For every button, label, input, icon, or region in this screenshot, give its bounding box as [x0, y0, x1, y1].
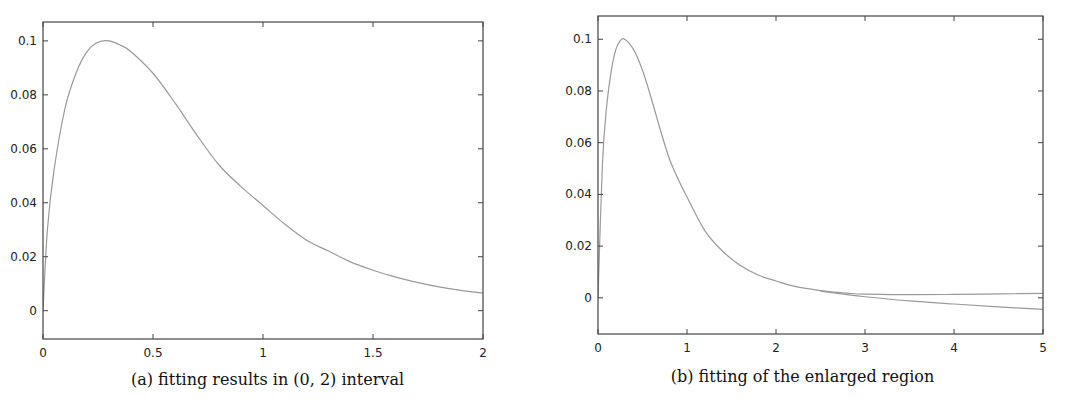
y-tick-label: 0.06	[565, 136, 592, 150]
y-tick-label: 0.04	[10, 196, 37, 210]
figure-a: 00.511.5200.020.040.060.080.1 (a) fittin…	[0, 0, 535, 415]
x-tick-label: 0	[594, 341, 602, 355]
x-tick-label: 1.5	[363, 346, 382, 360]
y-tick-label: 0.08	[565, 84, 592, 98]
x-tick-label: 0	[39, 346, 47, 360]
x-tick-label: 2	[479, 346, 487, 360]
y-tick-label: 0.08	[10, 88, 37, 102]
x-tick-label: 4	[950, 341, 958, 355]
figure-b: 01234500.020.040.060.080.1 (b) fitting o…	[535, 0, 1070, 415]
series-line-fit	[43, 41, 483, 311]
y-tick-label: 0.02	[10, 250, 37, 264]
axes-frame	[43, 22, 483, 339]
caption-a: (a) fitting results in (0, 2) interval	[0, 370, 535, 389]
y-tick-label: 0	[584, 291, 592, 305]
y-tick-label: 0.04	[565, 187, 592, 201]
y-tick-label: 0.1	[18, 34, 37, 48]
chart-a-plot: 00.511.5200.020.040.060.080.1	[0, 0, 535, 415]
y-tick-label: 0.02	[565, 239, 592, 253]
y-tick-label: 0.06	[10, 142, 37, 156]
chart-b-plot: 01234500.020.040.060.080.1	[535, 0, 1070, 415]
x-tick-label: 5	[1039, 341, 1047, 355]
x-tick-label: 2	[772, 341, 780, 355]
x-tick-label: 1	[259, 346, 267, 360]
y-tick-label: 0	[29, 304, 37, 318]
x-tick-label: 0.5	[143, 346, 162, 360]
x-tick-label: 1	[683, 341, 691, 355]
y-tick-label: 0.1	[573, 32, 592, 46]
caption-b: (b) fitting of the enlarged region	[535, 367, 1070, 386]
series-line-original	[598, 39, 1043, 298]
axes-frame	[598, 16, 1043, 334]
x-tick-label: 3	[861, 341, 869, 355]
